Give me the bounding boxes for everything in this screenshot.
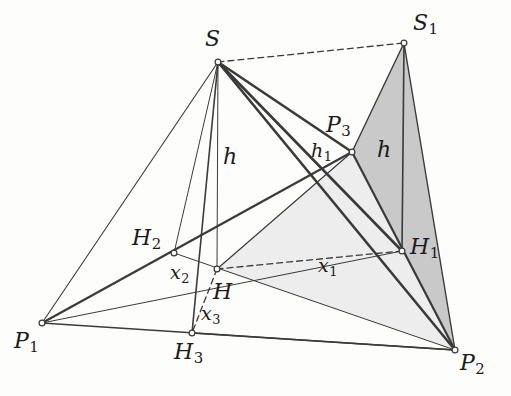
point-label-h3: H3 xyxy=(174,341,203,366)
measure-label-h: h xyxy=(223,146,237,168)
cevian-S-H xyxy=(217,62,218,269)
point-label-h2-text: H xyxy=(132,225,151,250)
measure-label-h-right-text: h xyxy=(377,137,391,162)
figure-canvas xyxy=(0,0,511,396)
point-label-p1-text: P xyxy=(14,328,29,353)
measure-label-h-right: h xyxy=(377,139,391,161)
point-label-p2-subscript: 2 xyxy=(475,360,485,378)
point-label-p3: P3 xyxy=(326,114,351,139)
point-label-p3-subscript: 3 xyxy=(341,122,351,140)
measure-label-h1: h1 xyxy=(311,141,332,164)
shaded-faces-group xyxy=(217,43,455,350)
point-label-s: S xyxy=(205,28,220,50)
point-label-h1-text: H xyxy=(410,234,429,259)
vertex-marker-p2 xyxy=(452,347,458,353)
vertex-marker-p3 xyxy=(349,149,355,155)
vertex-marker-p1 xyxy=(39,320,45,326)
measure-label-x3: x3 xyxy=(201,304,220,327)
point-label-p2-text: P xyxy=(460,350,475,375)
measure-label-x2-text: x xyxy=(170,261,181,283)
point-label-s1-text: S xyxy=(413,10,428,35)
vertex-marker-h xyxy=(214,266,220,272)
measure-label-x3-text: x xyxy=(201,302,212,324)
measure-label-h-text: h xyxy=(223,144,237,169)
point-label-s1: S1 xyxy=(413,12,438,37)
vertex-marker-h2 xyxy=(171,250,177,256)
point-label-h2-subscript: 2 xyxy=(151,235,161,253)
cevian-S-H2 xyxy=(174,62,218,253)
point-label-h1-subscript: 1 xyxy=(429,244,439,262)
measure-label-x2-subscript: 2 xyxy=(181,271,190,286)
point-label-h1: H1 xyxy=(410,236,439,261)
measure-label-x1-text: x xyxy=(318,254,329,276)
point-label-s1-subscript: 1 xyxy=(428,20,438,38)
point-label-p1: P1 xyxy=(14,330,39,355)
point-label-h: H xyxy=(213,281,232,303)
geometry-figure: SS1P1P2P3HH1H2H3hhh1x1x2x3 xyxy=(0,0,511,396)
point-label-p3-text: P xyxy=(326,112,341,137)
measure-label-x2: x2 xyxy=(170,263,189,286)
point-label-h3-text: H xyxy=(174,339,193,364)
point-label-p2: P2 xyxy=(460,352,485,377)
vertex-marker-s xyxy=(215,59,221,65)
measure-label-h1-subscript: 1 xyxy=(323,149,332,164)
point-label-h-text: H xyxy=(213,279,232,304)
point-label-s-text: S xyxy=(205,26,220,51)
point-label-p1-subscript: 1 xyxy=(29,338,39,356)
point-label-h2: H2 xyxy=(132,227,161,252)
measure-label-h1-text: h xyxy=(311,139,323,161)
vertex-marker-h1 xyxy=(399,248,405,254)
measure-label-x1-subscript: 1 xyxy=(329,264,338,279)
vertex-marker-s1 xyxy=(401,40,407,46)
measure-label-x3-subscript: 3 xyxy=(212,312,221,327)
dashed-S-S1 xyxy=(218,43,404,62)
point-label-h3-subscript: 3 xyxy=(193,349,203,367)
edge-S-P1 xyxy=(42,62,218,323)
vertex-marker-h3 xyxy=(189,330,195,336)
measure-label-x1: x1 xyxy=(318,256,337,279)
